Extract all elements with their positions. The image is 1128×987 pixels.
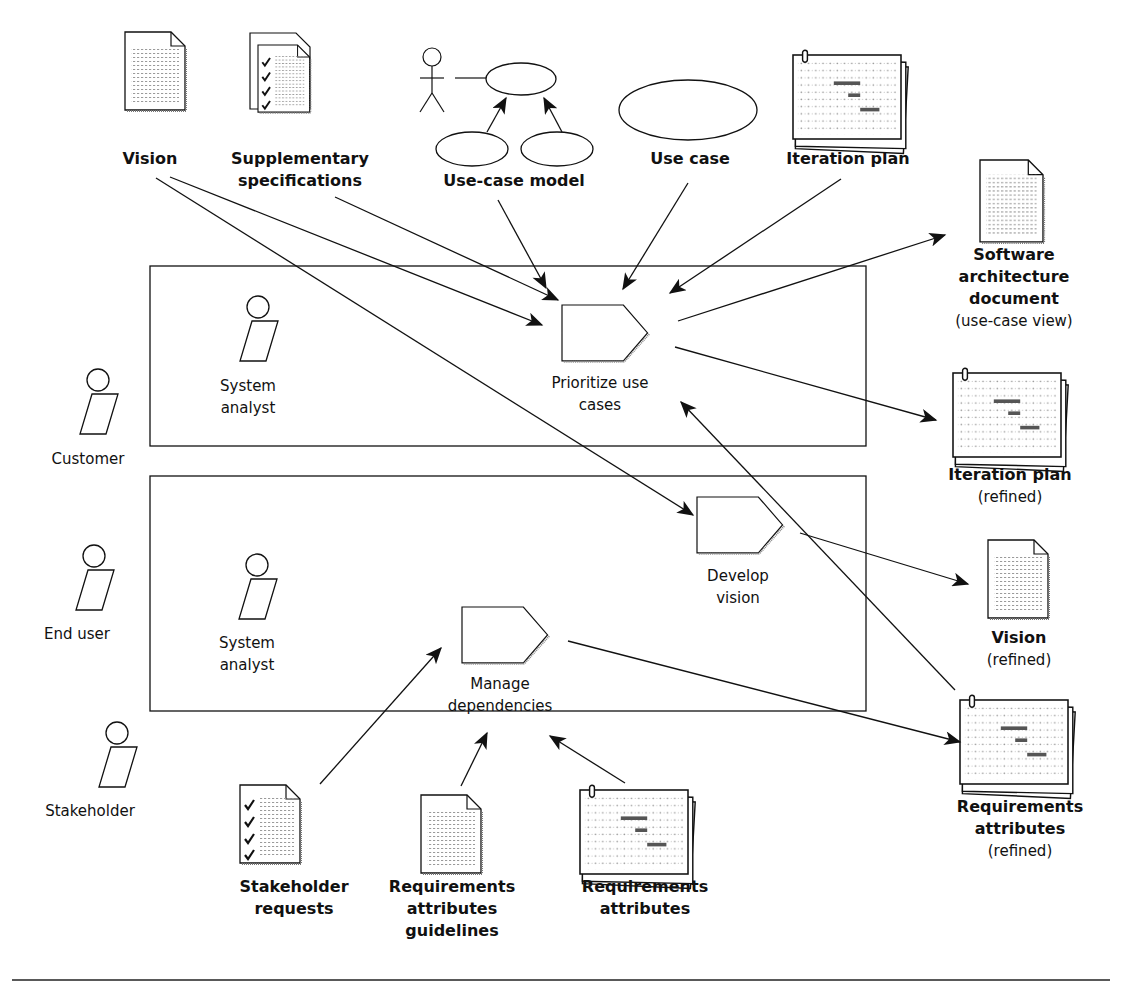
req-attributes-refined-label: Requirements attributes (refined) [957,796,1083,862]
use-case-model-icon [420,48,593,166]
supplementary-specifications-label: Supplementary specifications [231,148,369,192]
iteration-plan-refined-label: Iteration plan (refined) [948,464,1071,508]
use-case-label: Use case [650,148,730,170]
stakeholder-requests-icon [240,785,301,864]
stakeholder-actor-icon [99,722,137,787]
req-attributes-guidelines-icon [421,795,482,874]
vision-document-icon [125,32,186,111]
customer-actor-icon [80,369,118,434]
req-attributes-label: Requirements attributes [582,876,708,920]
prioritize-activity-icon[interactable] [562,305,649,362]
supplementary-specs-icon [250,33,310,113]
system-analyst-label-bottom: System analyst [219,632,275,676]
sad-document-icon [980,160,1044,243]
develop-vision-label[interactable]: Develop vision [707,565,769,609]
system-analyst-worker-icon-top [240,296,278,361]
prioritize-use-cases-label[interactable]: Prioritize use cases [551,372,648,416]
manage-deps-activity-icon[interactable] [462,607,549,664]
iteration-plan-refined-icon [953,368,1068,471]
vision-refined-document-icon [988,540,1049,619]
use-case-ellipse-icon [619,80,757,140]
req-attributes-refined-icon [960,695,1075,798]
develop-vision-activity-icon[interactable] [697,497,784,554]
vision-refined-label: Vision (refined) [987,627,1051,671]
stakeholder-label: Stakeholder [45,800,135,822]
end-user-actor-icon [76,545,114,610]
use-case-model-label: Use-case model [443,170,585,192]
sad-label: Software architecture document (use-case… [955,244,1072,332]
customer-label: Customer [52,448,125,470]
iteration-plan-label: Iteration plan [786,148,909,170]
vision-label: Vision [123,148,178,170]
system-analyst-label-top: System analyst [220,375,276,419]
system-analyst-worker-icon-bottom [239,554,277,619]
stakeholder-requests-label: Stakeholder requests [239,876,348,920]
req-attributes-icon [580,785,695,888]
manage-dependencies-label[interactable]: Manage dependencies [448,673,553,717]
req-attributes-guidelines-label: Requirements attributes guidelines [389,876,515,942]
iteration-plan-icon [793,50,908,153]
flow-arrows [156,177,968,786]
end-user-label: End user [44,623,110,645]
